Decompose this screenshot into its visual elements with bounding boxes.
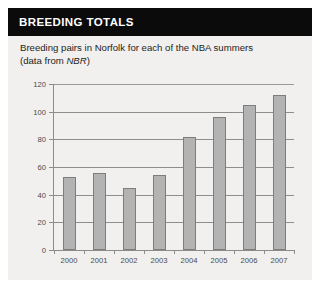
bar-2002 [123, 188, 136, 250]
bar-slot [264, 84, 294, 250]
bar-2006 [243, 105, 256, 250]
x-axis-labels: 20002001200220032004200520062007 [54, 256, 294, 265]
y-axis-tick-label: 20 [20, 218, 46, 227]
y-tick-mark [49, 84, 53, 85]
bar-slot [144, 84, 174, 250]
chart-caption-line2-suffix: ) [87, 55, 90, 66]
chart-caption: Breeding pairs in Norfolk for each of th… [20, 42, 304, 67]
bar-chart: 020406080100120 200020012002200320042005… [20, 76, 304, 272]
x-tick-mark [144, 250, 145, 254]
x-tick-mark [54, 250, 55, 254]
x-axis-label-2003: 2003 [144, 256, 174, 265]
y-tick-mark [49, 195, 53, 196]
x-tick-mark [114, 250, 115, 254]
x-axis-label-2000: 2000 [54, 256, 84, 265]
bar-series [54, 84, 294, 250]
bar-slot [54, 84, 84, 250]
bar-slot [84, 84, 114, 250]
y-axis-tick-label: 100 [20, 107, 46, 116]
x-tick-mark [84, 250, 85, 254]
x-tick-mark [294, 250, 295, 254]
x-tick-mark [234, 250, 235, 254]
bar-2007 [273, 95, 286, 250]
x-axis-label-2005: 2005 [204, 256, 234, 265]
x-axis-label-2002: 2002 [114, 256, 144, 265]
chart-caption-line1: Breeding pairs in Norfolk for each of th… [20, 42, 253, 53]
panel-title: BREEDING TOTALS [19, 16, 134, 28]
y-axis-tick-label: 60 [20, 163, 46, 172]
x-tick-mark [264, 250, 265, 254]
x-axis-label-2006: 2006 [234, 256, 264, 265]
y-tick-mark [49, 250, 53, 251]
y-tick-mark [49, 222, 53, 223]
bar-2000 [63, 177, 76, 250]
x-axis-label-2007: 2007 [264, 256, 294, 265]
y-axis-tick-label: 40 [20, 190, 46, 199]
x-axis-ticks [54, 250, 294, 255]
y-tick-mark [49, 112, 53, 113]
bar-slot [114, 84, 144, 250]
bar-slot [174, 84, 204, 250]
y-axis-tick-label: 0 [20, 246, 46, 255]
y-tick-mark [49, 139, 53, 140]
chart-caption-line2-prefix: (data from [20, 55, 66, 66]
chart-caption-source: NBR [66, 55, 86, 66]
bar-slot [234, 84, 264, 250]
y-axis-tick-label: 120 [20, 80, 46, 89]
x-axis-label-2001: 2001 [84, 256, 114, 265]
bar-2005 [213, 117, 226, 250]
bar-2004 [183, 137, 196, 250]
y-tick-mark [49, 167, 53, 168]
x-tick-mark [204, 250, 205, 254]
x-axis-label-2004: 2004 [174, 256, 204, 265]
bar-2003 [153, 175, 166, 250]
y-axis-tick-label: 80 [20, 135, 46, 144]
panel-header: BREEDING TOTALS [8, 8, 312, 36]
x-tick-mark [174, 250, 175, 254]
breeding-totals-panel: BREEDING TOTALS Breeding pairs in Norfol… [8, 8, 312, 280]
bar-2001 [93, 173, 106, 250]
bar-slot [204, 84, 234, 250]
